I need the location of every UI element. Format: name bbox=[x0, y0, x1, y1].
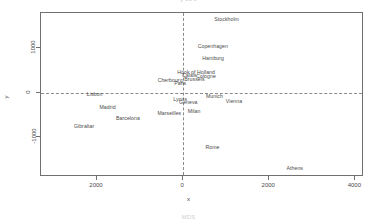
y-tick-label: -1000 bbox=[31, 128, 37, 143]
y-tick-mark bbox=[36, 92, 40, 93]
data-point-label: Athens bbox=[287, 165, 303, 171]
data-point-label: Copenhagen bbox=[198, 43, 228, 49]
data-point-label: Hamburg bbox=[202, 55, 224, 61]
data-point-label: Marseilles bbox=[157, 110, 181, 116]
data-point-label: Vienna bbox=[226, 98, 242, 104]
mds-scatter-figure: y vs x AthensBarcelonaBrusselsCalaisCher… bbox=[0, 0, 377, 224]
data-point-label: Lisbon bbox=[87, 91, 103, 97]
data-point-label: Milan bbox=[188, 108, 201, 114]
data-point-label: Barcelona bbox=[116, 115, 140, 121]
data-point-label: Rome bbox=[205, 144, 219, 150]
y-tick-mark bbox=[36, 47, 40, 48]
x-axis-label: x bbox=[0, 196, 377, 202]
x-tick-mark bbox=[182, 176, 183, 180]
x-tick-label: 2000 bbox=[89, 182, 102, 188]
plot-box: AthensBarcelonaBrusselsCalaisCherbourgCo… bbox=[40, 12, 363, 176]
data-point-label: Gibraltar bbox=[74, 123, 94, 129]
y-tick-label: 1000 bbox=[30, 41, 36, 54]
x-tick-mark bbox=[354, 176, 355, 180]
x-tick-mark bbox=[96, 176, 97, 180]
data-point-label: Lyons bbox=[173, 96, 187, 102]
x-tick-mark bbox=[268, 176, 269, 180]
x-tick-label: 2000 bbox=[262, 182, 275, 188]
x-tick-label: 0 bbox=[180, 182, 183, 188]
x-tick-label: 4000 bbox=[348, 182, 361, 188]
reference-line-vertical bbox=[183, 13, 184, 175]
y-tick-label: 0 bbox=[25, 90, 31, 93]
data-point-label: Stockholm bbox=[214, 16, 239, 22]
data-point-label: Madrid bbox=[100, 104, 116, 110]
chart-title: y vs x bbox=[0, 0, 377, 2]
y-axis-label: y bbox=[3, 96, 9, 99]
plot-area: AthensBarcelonaBrusselsCalaisCherbourgCo… bbox=[41, 13, 362, 175]
data-point-label: Hook of Holland bbox=[177, 69, 215, 75]
figure-caption: MDS bbox=[0, 214, 377, 220]
data-point-label: Paris bbox=[174, 80, 186, 86]
data-point-label: Munich bbox=[206, 93, 223, 99]
